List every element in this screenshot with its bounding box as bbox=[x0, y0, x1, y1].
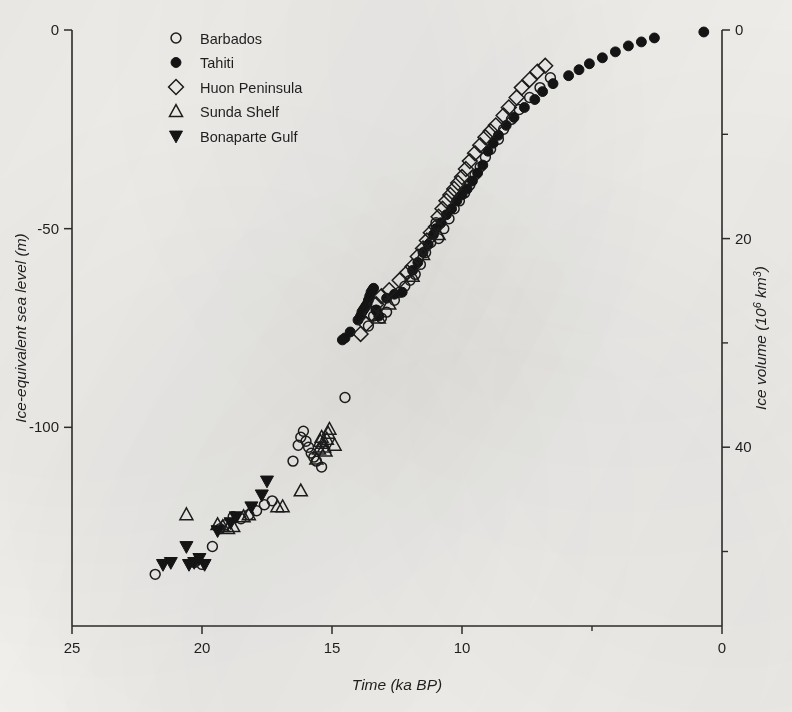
legend-marker-huon-icon bbox=[169, 80, 184, 95]
y-axis-left-tick-label: -50 bbox=[37, 220, 59, 237]
data-point bbox=[180, 508, 193, 520]
data-point bbox=[294, 484, 307, 496]
data-point bbox=[610, 47, 620, 57]
legend-label-bonaparte: Bonaparte Gulf bbox=[200, 129, 299, 145]
data-point bbox=[649, 33, 659, 43]
data-point bbox=[564, 71, 574, 81]
data-point bbox=[584, 59, 594, 69]
x-axis-tick-label: 10 bbox=[454, 639, 471, 656]
x-axis-tick-label: 20 bbox=[194, 639, 211, 656]
data-point bbox=[150, 569, 160, 579]
data-point bbox=[623, 41, 633, 51]
series-barbados bbox=[150, 73, 555, 580]
legend-item-bonaparte: Bonaparte Gulf bbox=[170, 129, 299, 145]
data-point bbox=[699, 27, 709, 37]
data-point bbox=[538, 87, 548, 97]
y-axis-right-tick-label: 40 bbox=[735, 438, 752, 455]
legend-item-tahiti: Tahiti bbox=[171, 55, 234, 71]
legend-marker-sunda-icon bbox=[170, 105, 183, 117]
series-tahiti bbox=[337, 27, 708, 345]
x-axis-tick-label: 15 bbox=[324, 639, 341, 656]
data-point bbox=[636, 37, 646, 47]
data-point bbox=[337, 335, 347, 345]
data-point bbox=[180, 542, 193, 554]
data-point bbox=[530, 64, 545, 79]
data-point bbox=[538, 58, 553, 73]
data-point bbox=[423, 240, 433, 250]
figure-container: 2520151000-50-10002040Time (ka BP)Ice-eq… bbox=[0, 0, 792, 712]
scatter-plot: 2520151000-50-10002040Time (ka BP)Ice-eq… bbox=[0, 0, 792, 712]
legend-marker-tahiti-icon bbox=[171, 58, 181, 68]
data-point bbox=[548, 79, 558, 89]
data-point bbox=[304, 442, 314, 452]
x-axis-tick-label: 0 bbox=[718, 639, 726, 656]
data-point bbox=[340, 393, 350, 403]
y-axis-left-tick-label: 0 bbox=[51, 21, 59, 38]
y-axis-right-tick-label: 20 bbox=[735, 230, 752, 247]
series-sunda-shelf bbox=[180, 228, 445, 534]
legend-label-sunda: Sunda Shelf bbox=[200, 104, 280, 120]
legend-label-tahiti: Tahiti bbox=[200, 55, 234, 71]
x-axis-title: Time (ka BP) bbox=[352, 676, 442, 693]
data-point bbox=[298, 426, 308, 436]
legend-label-barbados: Barbados bbox=[200, 31, 262, 47]
legend-marker-barbados-icon bbox=[171, 33, 181, 43]
y-axis-right-title: Ice volume (106 km3) bbox=[751, 266, 769, 410]
legend-item-barbados: Barbados bbox=[171, 31, 262, 47]
data-point bbox=[397, 287, 407, 297]
y-axis-right-tick-label: 0 bbox=[735, 21, 743, 38]
legend-label-huon: Huon Peninsula bbox=[200, 80, 303, 96]
data-point bbox=[207, 542, 217, 552]
data-point bbox=[478, 160, 488, 170]
data-point bbox=[261, 476, 274, 488]
legend-item-sunda: Sunda Shelf bbox=[170, 104, 280, 120]
data-point bbox=[597, 53, 607, 63]
data-point bbox=[519, 103, 529, 113]
legend-marker-bonaparte-icon bbox=[170, 131, 183, 143]
data-point bbox=[574, 65, 584, 75]
data-point bbox=[522, 72, 537, 87]
data-point bbox=[288, 456, 298, 466]
data-point bbox=[530, 95, 540, 105]
y-axis-left-title: Ice-equivalent sea level (m) bbox=[12, 233, 29, 423]
legend-item-huon: Huon Peninsula bbox=[169, 80, 304, 96]
data-point bbox=[369, 283, 379, 293]
axes-group: 2520151000-50-10002040Time (ka BP)Ice-eq… bbox=[12, 21, 769, 693]
x-axis-tick-label: 25 bbox=[64, 639, 81, 656]
y-axis-left-tick-label: -100 bbox=[29, 418, 59, 435]
data-point bbox=[353, 327, 368, 342]
chart-legend: BarbadosTahitiHuon PeninsulaSunda ShelfB… bbox=[169, 31, 304, 145]
